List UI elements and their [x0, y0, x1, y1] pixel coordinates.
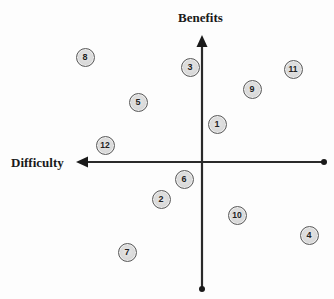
- quadrant-diagram: Benefits Difficulty 1 2 3 4 5 6 7 8 9 10…: [0, 0, 334, 299]
- item-node-11: 11: [284, 60, 303, 79]
- item-node-3: 3: [181, 58, 200, 77]
- arrow-up-icon: [197, 35, 208, 47]
- y-axis-label: Benefits: [178, 10, 223, 26]
- item-node-8: 8: [76, 48, 95, 67]
- arrow-left-icon: [76, 157, 88, 168]
- item-node-4: 4: [300, 226, 319, 245]
- item-node-1: 1: [208, 115, 227, 134]
- item-node-5: 5: [129, 93, 148, 112]
- x-axis-label: Difficulty: [11, 155, 64, 171]
- item-node-10: 10: [228, 206, 247, 225]
- item-node-7: 7: [118, 243, 137, 262]
- axes: [0, 0, 334, 299]
- item-node-9: 9: [243, 80, 262, 99]
- item-node-12: 12: [96, 136, 115, 155]
- axis-end-dot-right: [321, 159, 327, 165]
- item-node-2: 2: [152, 190, 171, 209]
- axis-end-dot-bottom: [199, 286, 205, 292]
- item-node-6: 6: [175, 170, 194, 189]
